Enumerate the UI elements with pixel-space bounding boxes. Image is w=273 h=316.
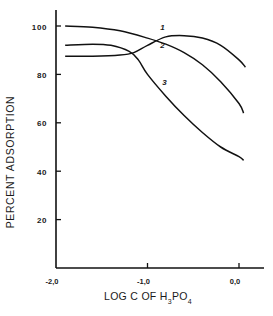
- y-axis-title: PERCENT ADSORPTION: [4, 96, 16, 229]
- curves: [65, 26, 245, 160]
- x-ticks: -2,0-1,00,0: [46, 263, 241, 286]
- curve-3: [65, 44, 243, 160]
- x-axis-title: LOG C OF H3PO4: [104, 290, 192, 305]
- curve-label-3: 3: [162, 78, 167, 87]
- y-tick-label: 60: [37, 119, 47, 128]
- y-tick-label: 100: [32, 23, 47, 32]
- x-axis-title-sub2: 4: [188, 298, 192, 305]
- x-axis-title-mid: PO: [172, 290, 188, 302]
- x-tick-label: -1,0: [137, 277, 150, 286]
- adsorption-chart: 20406080100 -2,0-1,00,0 123 PERCENT ADSO…: [0, 0, 273, 316]
- curve-labels: 123: [159, 23, 167, 88]
- y-tick-label: 80: [37, 71, 47, 80]
- x-tick-label: 0,0: [230, 277, 240, 286]
- curve-2: [65, 26, 243, 113]
- x-axis-title-main: LOG C OF H: [104, 290, 168, 302]
- y-tick-label: 40: [37, 168, 47, 177]
- curve-label-2: 2: [159, 41, 165, 50]
- x-tick-label: -2,0: [46, 277, 59, 286]
- curve-label-1: 1: [160, 23, 165, 32]
- y-tick-label: 20: [37, 216, 47, 225]
